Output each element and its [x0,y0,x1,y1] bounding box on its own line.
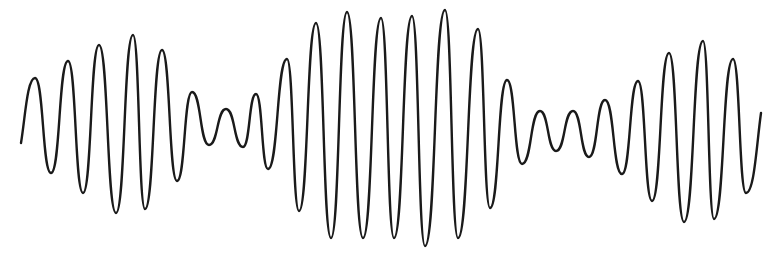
figure-canvas [0,0,777,253]
beat-waveform-line [21,10,761,246]
waveform-graphic [0,0,777,253]
